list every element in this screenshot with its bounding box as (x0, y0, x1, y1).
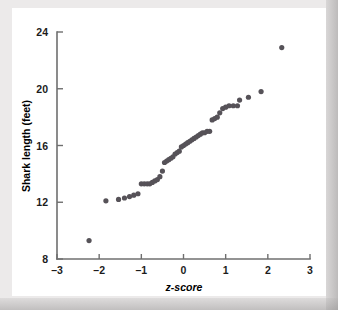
figure-container: 812162024 –3–2–10123 z-score Shark lengt… (0, 0, 338, 310)
scatter-points-group (86, 45, 284, 243)
x-tick-label: 0 (181, 264, 187, 276)
y-tick-label: 12 (36, 196, 48, 208)
data-point (157, 174, 162, 179)
data-point (135, 191, 140, 196)
data-point (237, 98, 242, 103)
data-point (279, 45, 284, 50)
y-tick-label: 16 (36, 140, 48, 152)
data-point (235, 103, 240, 108)
data-point (217, 110, 222, 115)
data-point (86, 238, 91, 243)
x-tick-label: –1 (135, 264, 147, 276)
x-axis-title: z-score (165, 281, 203, 293)
x-tick-label: –2 (93, 264, 105, 276)
data-point (103, 198, 108, 203)
x-tick-label: 3 (307, 264, 313, 276)
data-point (116, 197, 121, 202)
x-tick-label: –3 (51, 264, 63, 276)
y-axis-title: Shark length (feet) (20, 100, 32, 192)
y-axis: 812162024 (36, 26, 63, 265)
x-tick-label: 2 (265, 264, 271, 276)
x-tick-label: 1 (223, 264, 229, 276)
data-point (246, 95, 251, 100)
data-point (258, 89, 263, 94)
normal-quantile-plot: 812162024 –3–2–10123 z-score Shark lengt… (0, 0, 338, 310)
y-tick-label: 24 (36, 26, 48, 38)
data-point (160, 168, 165, 173)
y-tick-label: 20 (36, 83, 48, 95)
data-point (207, 129, 212, 134)
y-tick-label: 8 (42, 253, 48, 265)
data-point (122, 195, 127, 200)
x-axis: –3–2–10123 (51, 254, 313, 276)
